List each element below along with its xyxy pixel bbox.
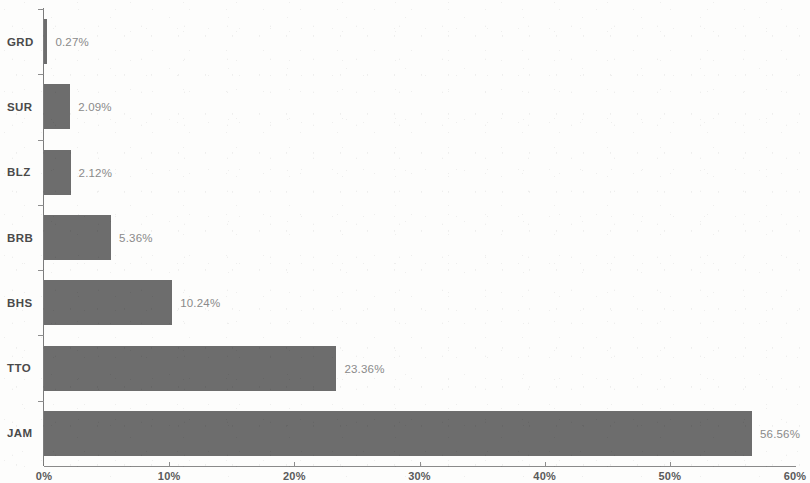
x-axis-label-60: 60% <box>784 470 807 482</box>
bar-value-label-tto: 23.36% <box>344 363 384 375</box>
bar-row: 56.56% <box>0 411 810 456</box>
bar-chart: 0.27%2.09%2.12%5.36%10.24%23.36%56.56% G… <box>0 0 810 483</box>
category-label-jam: JAM <box>0 427 38 439</box>
bar-value-label-sur: 2.09% <box>78 101 112 113</box>
y-axis-tick <box>38 270 44 271</box>
bar-row: 2.09% <box>0 84 810 129</box>
bar-value-label-blz: 2.12% <box>79 167 113 179</box>
bar-value-label-grd: 0.27% <box>55 36 89 48</box>
bar-row: 0.27% <box>0 19 810 64</box>
bar-value-label-jam: 56.56% <box>760 428 800 440</box>
x-axis-label-0: 0% <box>36 470 52 482</box>
bar-row: 10.24% <box>0 280 810 325</box>
bar-grd[interactable] <box>44 19 47 64</box>
bar-row: 2.12% <box>0 150 810 195</box>
y-axis-tick <box>38 140 44 141</box>
x-axis-tick <box>420 462 421 467</box>
x-axis-label-50: 50% <box>659 470 682 482</box>
x-axis-label-20: 20% <box>283 470 306 482</box>
bar-row: 23.36% <box>0 346 810 391</box>
y-axis-tick <box>38 74 44 75</box>
category-label-grd: GRD <box>0 36 38 48</box>
x-axis-label-10: 10% <box>158 470 181 482</box>
y-axis-tick <box>38 335 44 336</box>
category-label-tto: TTO <box>0 362 38 374</box>
bar-blz[interactable] <box>44 150 71 195</box>
bar-row: 5.36% <box>0 215 810 260</box>
bar-bhs[interactable] <box>44 280 172 325</box>
category-label-blz: BLZ <box>0 166 38 178</box>
x-axis-tick <box>294 462 295 467</box>
x-axis-tick <box>670 462 671 467</box>
x-axis-label-30: 30% <box>408 470 431 482</box>
category-label-brb: BRB <box>0 232 38 244</box>
x-axis-tick <box>545 462 546 467</box>
bar-jam[interactable] <box>44 411 752 456</box>
category-label-bhs: BHS <box>0 297 38 309</box>
bar-value-label-brb: 5.36% <box>119 232 153 244</box>
x-axis-label-40: 40% <box>533 470 556 482</box>
x-axis-tick <box>169 462 170 467</box>
y-axis-tick <box>38 401 44 402</box>
bar-sur[interactable] <box>44 84 70 129</box>
y-axis-tick <box>38 9 44 10</box>
bar-brb[interactable] <box>44 215 111 260</box>
bar-value-label-bhs: 10.24% <box>180 297 220 309</box>
bar-tto[interactable] <box>44 346 336 391</box>
y-axis-tick <box>38 205 44 206</box>
category-label-sur: SUR <box>0 101 38 113</box>
